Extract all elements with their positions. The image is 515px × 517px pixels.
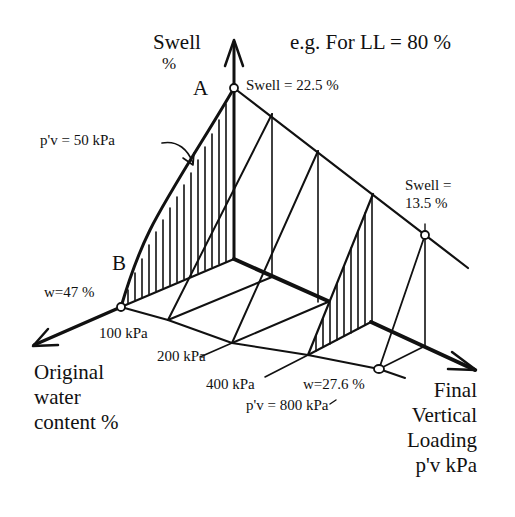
point-d-marker [374, 365, 384, 373]
loading-axis-label-line2: Vertical [412, 405, 477, 426]
loading-axis-label-line1: Final [434, 380, 477, 401]
load-label-400kpa: 400 kPa [206, 377, 255, 392]
point-c-annotation-line1: Swell = [405, 178, 451, 193]
loading-axis-label-line4: p'v kPa [415, 455, 477, 476]
point-d-annotation: w=27.6 % [303, 377, 365, 392]
point-c-annotation-line2: 13.5 % [405, 196, 448, 211]
water-content-axis-label-line3: content % [34, 412, 119, 433]
swell-axis-unit: % [162, 55, 176, 72]
point-b-annotation: w=47 % [44, 285, 95, 300]
point-a-label: A [193, 78, 208, 99]
load-label-100kpa: 100 kPa [99, 326, 148, 341]
load-label-200kpa: 200 kPa [157, 349, 206, 364]
hatching-50kpa [128, 104, 226, 303]
base-water-content-line [121, 307, 405, 378]
swell-diagram: e.g. For LL = 80 % Swell % A Swell = 22.… [0, 0, 515, 517]
curve-label-50kpa: p'v = 50 kPa [40, 133, 115, 148]
final-load-label: p'v = 800 kPa [246, 398, 328, 413]
point-a-marker [230, 84, 238, 92]
point-b-marker [117, 303, 125, 311]
water-content-axis-label-line1: Original [34, 362, 104, 383]
swell-axis-label: Swell [153, 32, 201, 53]
pointer-arrow-50kpa [162, 142, 193, 163]
point-b-label: B [112, 253, 126, 274]
diagram-title: e.g. For LL = 80 % [290, 32, 451, 53]
point-c-marker [421, 231, 429, 239]
loading-axis-label-line3: Loading [407, 430, 477, 451]
loading-axis-segment-1 [234, 259, 328, 301]
water-content-axis-label-line2: water [34, 387, 81, 408]
point-a-annotation: Swell = 22.5 % [246, 78, 339, 93]
